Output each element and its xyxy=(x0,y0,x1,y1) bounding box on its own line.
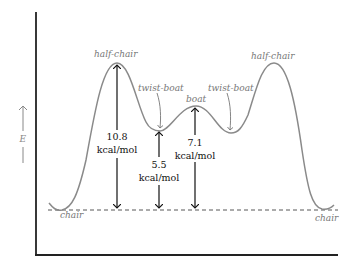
label-twist-boat-right: twist-boat xyxy=(208,83,254,93)
label-chair-left: chair xyxy=(60,210,84,220)
gap-value-boat: 7.1 xyxy=(187,137,202,148)
label-half-chair-right: half-chair xyxy=(251,51,295,61)
label-boat: boat xyxy=(186,94,207,104)
gap-value-twist-boat: 5.5 xyxy=(151,159,166,170)
label-twist-boat-left: twist-boat xyxy=(138,83,184,93)
gap-unit-boat: kcal/mol xyxy=(175,150,216,161)
gap-unit-twist-boat: kcal/mol xyxy=(139,172,180,183)
twist-boat-left-pointer-icon xyxy=(157,93,161,128)
energy-diagram: E half-chair twist-boat boat twist-boat … xyxy=(0,0,357,268)
y-axis-label: E xyxy=(19,134,27,144)
gap-unit-half-chair: kcal/mol xyxy=(97,144,138,155)
twist-boat-right-pointer-icon xyxy=(227,93,231,130)
gap-value-half-chair: 10.8 xyxy=(106,131,127,142)
label-half-chair-left: half-chair xyxy=(94,49,138,59)
label-chair-right: chair xyxy=(315,213,339,223)
